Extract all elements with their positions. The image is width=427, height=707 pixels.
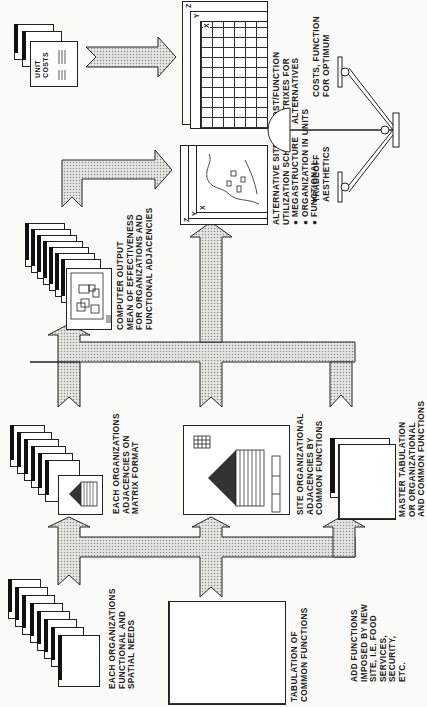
tradeoff-left-label: TRADEOFF AESTHETICS [312,146,331,202]
tradeoff-right-label: COSTS, FUNCTION FOR OPTIMUM [312,16,331,97]
